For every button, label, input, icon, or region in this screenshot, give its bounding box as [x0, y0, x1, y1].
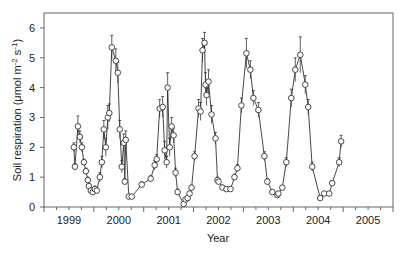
data-point-marker: [244, 50, 250, 56]
data-point-marker: [103, 145, 109, 151]
data-point-marker: [239, 103, 245, 109]
data-point-marker: [152, 162, 158, 168]
data-point-marker: [288, 95, 294, 101]
data-point-marker: [297, 52, 303, 58]
data-point-marker: [115, 70, 121, 76]
data-point-marker: [81, 159, 87, 165]
data-point-marker: [200, 48, 206, 54]
y-tick-label: 1: [29, 171, 35, 183]
data-point-marker: [292, 67, 298, 73]
data-point-marker: [338, 139, 344, 145]
y-tick-label: 5: [29, 52, 35, 64]
data-point-marker: [216, 179, 222, 185]
x-tick-label: 2003: [256, 214, 280, 226]
data-point-marker: [99, 159, 105, 165]
data-point-marker: [305, 104, 311, 110]
data-point-marker: [336, 159, 342, 165]
data-point-marker: [209, 112, 215, 118]
x-axis-title: Year: [207, 232, 230, 244]
data-point-marker: [117, 127, 123, 133]
data-point-marker: [83, 168, 89, 174]
data-point-marker: [192, 153, 198, 159]
data-point-marker: [167, 145, 173, 151]
x-tick-label: 2005: [356, 214, 380, 226]
data-point-marker: [228, 186, 234, 192]
data-point-marker: [94, 188, 100, 194]
data-point-marker: [173, 170, 179, 176]
x-tick-label: 2000: [107, 214, 131, 226]
data-point-marker: [160, 104, 166, 110]
data-point-marker: [202, 40, 208, 46]
data-point-marker: [71, 145, 77, 151]
axes: 01234561999200020012002200320042005: [29, 13, 393, 226]
data-point-marker: [251, 95, 257, 101]
data-point-marker: [198, 109, 204, 115]
data-point-marker: [164, 159, 170, 165]
data-point-marker: [119, 164, 125, 170]
soil-respiration-chart: 01234561999200020012002200320042005 Year…: [0, 0, 403, 253]
data-point-marker: [284, 159, 290, 165]
y-tick-label: 2: [29, 141, 35, 153]
data-point-marker: [276, 191, 282, 197]
data-point-marker: [97, 174, 103, 180]
y-tick-label: 6: [29, 22, 35, 34]
data-point-marker: [265, 179, 271, 185]
data-point-marker: [107, 110, 113, 116]
data-point-marker: [280, 185, 286, 191]
data-point-marker: [175, 189, 181, 195]
data-point-marker: [101, 127, 107, 133]
data-point-marker: [139, 182, 145, 188]
data-point-marker: [206, 79, 212, 85]
data-point-marker: [256, 107, 262, 113]
y-tick-label: 3: [29, 111, 35, 123]
data-point-marker: [75, 124, 81, 130]
data-point-marker: [169, 124, 175, 130]
x-tick-label: 2001: [156, 214, 180, 226]
data-point-marker: [204, 92, 210, 98]
y-tick-label: 4: [29, 82, 35, 94]
data-point-marker: [171, 133, 177, 139]
data-point-marker: [187, 191, 193, 197]
y-axis-title: Soil respiration (μmol m-2 s-1): [10, 39, 23, 181]
data-point-marker: [113, 58, 119, 64]
data-point-marker: [109, 45, 115, 51]
data-point-marker: [165, 85, 171, 91]
data-point-marker: [326, 191, 332, 197]
data-point-marker: [309, 164, 315, 170]
data-point-marker: [329, 180, 335, 186]
data-point-marker: [85, 177, 91, 183]
data-point-marker: [123, 137, 129, 143]
data-point-marker: [232, 174, 238, 180]
data-point-marker: [302, 82, 308, 88]
y-tick-label: 0: [29, 201, 35, 213]
data-point-marker: [189, 185, 195, 191]
x-tick-label: 2004: [306, 214, 330, 226]
data-series: [71, 32, 344, 206]
x-tick-label: 2002: [206, 214, 230, 226]
data-point-marker: [154, 156, 160, 162]
series-line: [74, 43, 341, 204]
x-tick-label: 1999: [57, 214, 81, 226]
data-point-marker: [262, 153, 268, 159]
data-point-marker: [72, 164, 78, 170]
data-point-marker: [235, 165, 241, 171]
data-point-marker: [213, 136, 219, 142]
data-point-marker: [248, 67, 254, 73]
data-point-marker: [122, 179, 128, 185]
data-point-marker: [129, 194, 135, 200]
data-point-marker: [79, 145, 85, 151]
data-point-marker: [148, 176, 154, 182]
data-point-marker: [77, 134, 83, 140]
